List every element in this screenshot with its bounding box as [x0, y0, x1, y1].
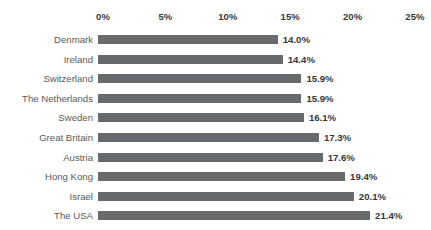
bar-value-label: 20.1%	[359, 189, 386, 203]
bar	[98, 35, 278, 44]
bar	[98, 172, 345, 181]
clipped-caption	[0, 223, 431, 230]
bar	[98, 211, 370, 220]
bar-value-label: 14.0%	[283, 32, 310, 46]
bar-row: Switzerland15.9%	[0, 71, 431, 91]
bar	[98, 192, 354, 201]
bar-row: Ireland14.4%	[0, 52, 431, 72]
bar-value-label: 16.1%	[309, 110, 336, 124]
bar-row: The Netherlands15.9%	[0, 91, 431, 111]
x-tick-label: 25%	[405, 11, 424, 23]
bar	[98, 153, 323, 162]
bar-value-label: 19.4%	[350, 169, 377, 183]
category-label: Sweden	[58, 110, 93, 131]
bar-chart: 0%5%10%15%20%25% Denmark14.0%Ireland14.4…	[0, 0, 431, 230]
bar-value-label: 15.9%	[306, 71, 333, 85]
bar-row: Austria17.6%	[0, 150, 431, 170]
category-label: Hong Kong	[45, 169, 93, 190]
x-axis-tick-labels: 0%5%10%15%20%25%	[0, 11, 431, 25]
bar-row: Sweden16.1%	[0, 110, 431, 130]
bar-row: Hong Kong19.4%	[0, 169, 431, 189]
bar-rows: Denmark14.0%Ireland14.4%Switzerland15.9%…	[0, 32, 431, 228]
category-label: The Netherlands	[22, 91, 93, 112]
category-label: Austria	[63, 150, 93, 171]
category-label: Israel	[70, 189, 93, 210]
bar-value-label: 17.3%	[324, 130, 351, 144]
bar-value-label: 14.4%	[288, 52, 315, 66]
bar	[98, 55, 283, 64]
bar	[98, 113, 304, 122]
x-tick-label: 5%	[158, 11, 172, 23]
x-tick-label: 10%	[218, 11, 237, 23]
x-tick-label: 20%	[343, 11, 362, 23]
category-label: Great Britain	[39, 130, 93, 151]
bar	[98, 133, 319, 142]
bar	[98, 74, 301, 83]
bar-value-label: 21.4%	[375, 208, 402, 222]
bar	[98, 94, 301, 103]
bar-value-label: 15.9%	[306, 91, 333, 105]
category-label: Switzerland	[43, 71, 93, 92]
category-label: Denmark	[54, 32, 93, 53]
x-tick-label: 0%	[96, 11, 110, 23]
category-label: Ireland	[64, 52, 93, 73]
x-tick-label: 15%	[281, 11, 300, 23]
bar-value-label: 17.6%	[328, 150, 355, 164]
bar-row: Great Britain17.3%	[0, 130, 431, 150]
bar-row: Denmark14.0%	[0, 32, 431, 52]
bar-row: Israel20.1%	[0, 189, 431, 209]
